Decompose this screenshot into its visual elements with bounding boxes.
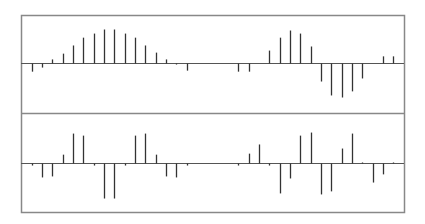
top-stem-panel — [21, 30, 404, 98]
stem-chart — [0, 0, 425, 224]
bottom-stem-panel — [21, 133, 404, 199]
chart-frame — [21, 16, 405, 213]
